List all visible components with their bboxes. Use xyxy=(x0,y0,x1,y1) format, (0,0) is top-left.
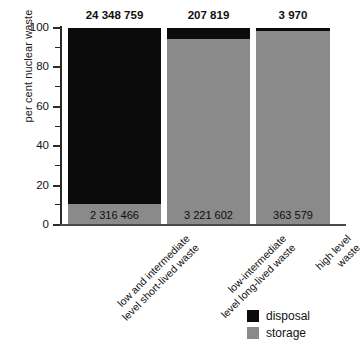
bar-group-1 xyxy=(68,28,161,224)
bar-inner-label-1: 2 316 466 xyxy=(68,210,161,221)
bar-inner-label-2: 3 221 602 xyxy=(167,210,250,221)
legend-swatch-storage-icon xyxy=(247,327,259,339)
chart-legend: disposal storage xyxy=(247,307,310,341)
legend-label-storage: storage xyxy=(266,327,306,339)
legend-item-disposal: disposal xyxy=(247,307,310,324)
bar-segment-storage-2 xyxy=(167,39,250,224)
bar-group-3 xyxy=(256,28,330,224)
bar-top-label-3: 3 970 xyxy=(256,10,330,22)
bar-segment-disposal-2 xyxy=(167,28,250,39)
bar-inner-label-3: 363 579 xyxy=(256,210,330,221)
bar-segment-disposal-1 xyxy=(68,28,161,204)
legend-label-disposal: disposal xyxy=(266,310,310,322)
bar-group-2 xyxy=(167,28,250,224)
bar-segment-storage-3 xyxy=(256,31,330,224)
bar-top-label-1: 24 348 759 xyxy=(68,10,161,22)
legend-swatch-disposal-icon xyxy=(247,310,259,322)
bar-top-label-2: 207 819 xyxy=(167,10,250,22)
legend-item-storage: storage xyxy=(247,324,310,341)
